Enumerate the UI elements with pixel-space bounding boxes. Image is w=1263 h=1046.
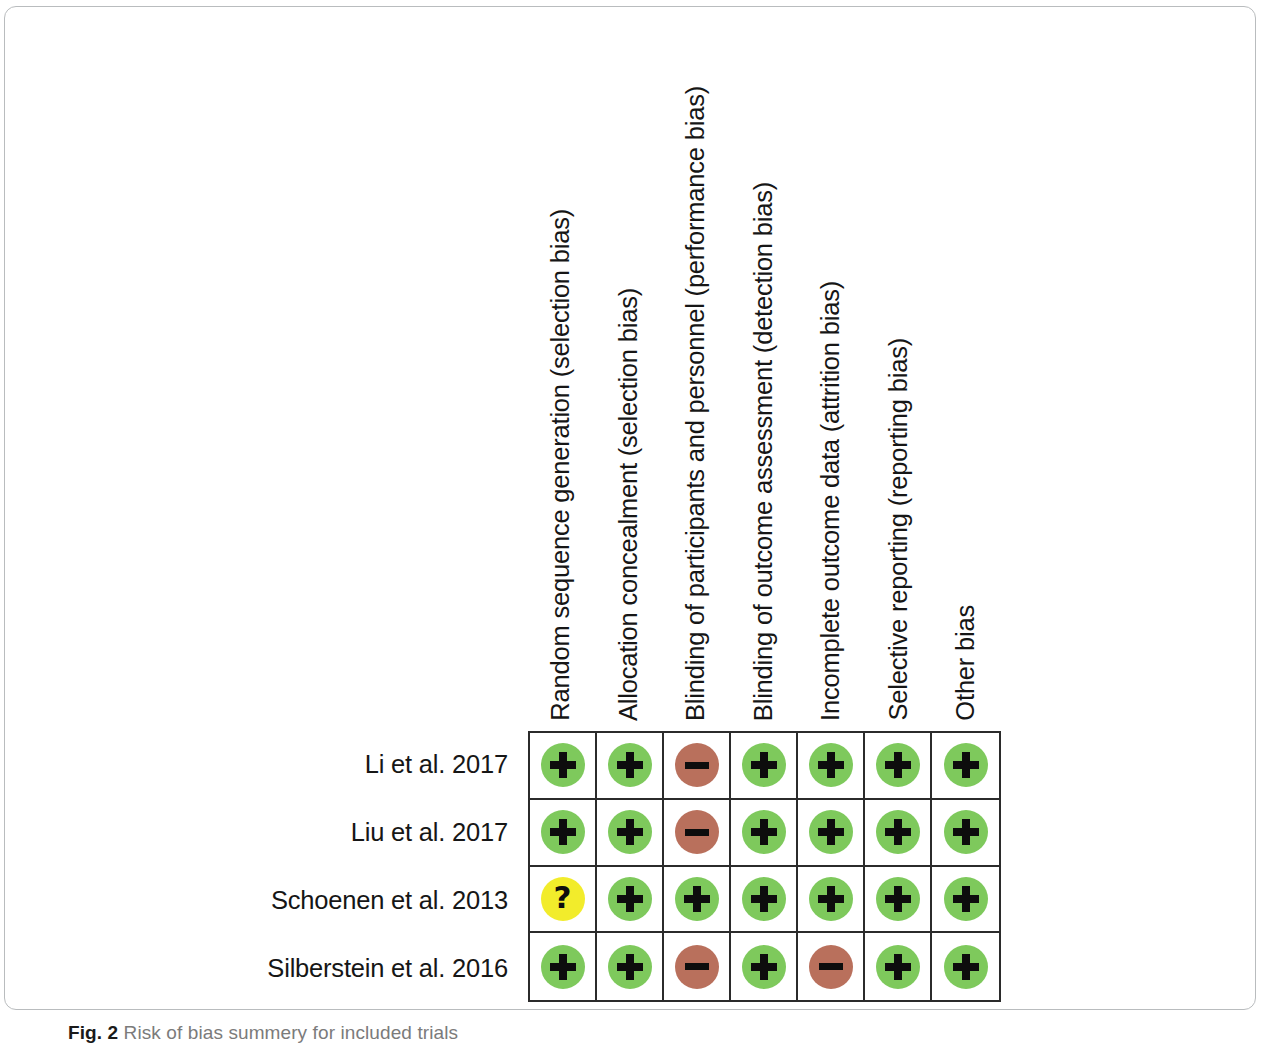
judgement-glyph: ? bbox=[554, 882, 572, 913]
judgement-low-icon bbox=[944, 945, 988, 989]
judgement-glyph bbox=[685, 963, 709, 970]
study-label: Liu et al. 2017 bbox=[0, 799, 518, 867]
judgement-glyph bbox=[751, 819, 777, 845]
column-header: Other bias bbox=[933, 21, 1001, 721]
judgement-glyph bbox=[818, 752, 844, 778]
judgement-low-icon bbox=[541, 743, 585, 787]
figure-caption: Fig. 2 Risk of bias summery for included… bbox=[68, 1022, 458, 1044]
study-label: Li et al. 2017 bbox=[0, 731, 518, 799]
risk-of-bias-cell bbox=[798, 800, 865, 867]
risk-of-bias-cell bbox=[932, 800, 999, 867]
judgement-low-icon bbox=[541, 810, 585, 854]
risk-of-bias-cell bbox=[932, 867, 999, 934]
judgement-glyph bbox=[953, 954, 979, 980]
judgement-glyph bbox=[885, 752, 911, 778]
risk-of-bias-cell bbox=[597, 867, 664, 934]
column-header: Blinding of participants and personnel (… bbox=[663, 21, 731, 721]
risk-of-bias-cell bbox=[798, 733, 865, 800]
judgement-glyph bbox=[885, 819, 911, 845]
column-header-label: Selective reporting (reporting bias) bbox=[886, 338, 912, 721]
judgement-low-icon bbox=[608, 945, 652, 989]
figure-caption-label: Fig. 2 bbox=[68, 1022, 118, 1043]
column-header-label: Blinding of outcome assessment (detectio… bbox=[751, 182, 777, 721]
column-header-label: Incomplete outcome data (attrition bias) bbox=[818, 281, 844, 721]
risk-of-bias-cell bbox=[865, 933, 932, 1000]
column-header: Incomplete outcome data (attrition bias) bbox=[798, 21, 866, 721]
column-header-band: Random sequence generation (selection bi… bbox=[528, 0, 1001, 731]
risk-of-bias-cell bbox=[664, 867, 731, 934]
risk-of-bias-cell bbox=[932, 933, 999, 1000]
judgement-glyph bbox=[617, 819, 643, 845]
risk-of-bias-cell bbox=[664, 933, 731, 1000]
risk-of-bias-cell bbox=[664, 733, 731, 800]
judgement-glyph bbox=[685, 762, 709, 769]
judgement-glyph bbox=[617, 954, 643, 980]
judgement-glyph bbox=[819, 963, 843, 970]
judgement-low-icon bbox=[541, 945, 585, 989]
column-header-label: Blinding of participants and personnel (… bbox=[683, 86, 709, 721]
study-label-column: Li et al. 2017Liu et al. 2017Schoenen et… bbox=[0, 731, 518, 1002]
risk-of-bias-cell bbox=[865, 800, 932, 867]
judgement-glyph bbox=[953, 752, 979, 778]
judgement-glyph bbox=[751, 954, 777, 980]
judgement-low-icon bbox=[876, 810, 920, 854]
judgement-glyph bbox=[550, 752, 576, 778]
risk-of-bias-cell bbox=[664, 800, 731, 867]
judgement-low-icon bbox=[809, 743, 853, 787]
figure-caption-text: Risk of bias summery for included trials bbox=[124, 1022, 459, 1043]
judgement-low-icon bbox=[608, 810, 652, 854]
judgement-low-icon bbox=[742, 743, 786, 787]
risk-of-bias-cell bbox=[597, 733, 664, 800]
judgement-low-icon bbox=[876, 877, 920, 921]
judgement-unclear-icon: ? bbox=[541, 877, 585, 921]
judgement-glyph bbox=[550, 819, 576, 845]
risk-of-bias-cell bbox=[530, 733, 597, 800]
risk-of-bias-cell bbox=[597, 800, 664, 867]
risk-of-bias-cell bbox=[865, 733, 932, 800]
judgement-glyph bbox=[550, 954, 576, 980]
judgement-high-icon bbox=[675, 810, 719, 854]
risk-of-bias-cell bbox=[530, 800, 597, 867]
judgement-low-icon bbox=[809, 877, 853, 921]
study-label: Schoenen et al. 2013 bbox=[0, 867, 518, 935]
study-label: Silberstein et al. 2016 bbox=[0, 934, 518, 1002]
column-header-label: Other bias bbox=[953, 605, 979, 721]
judgement-low-icon bbox=[876, 945, 920, 989]
judgement-low-icon bbox=[876, 743, 920, 787]
risk-of-bias-cell bbox=[597, 933, 664, 1000]
judgement-glyph bbox=[818, 819, 844, 845]
judgement-high-icon bbox=[675, 743, 719, 787]
risk-of-bias-cell bbox=[530, 933, 597, 1000]
judgement-glyph bbox=[617, 886, 643, 912]
judgement-low-icon bbox=[675, 877, 719, 921]
risk-of-bias-summary-figure: Random sequence generation (selection bi… bbox=[0, 0, 1263, 1010]
judgement-glyph bbox=[684, 886, 710, 912]
column-header: Blinding of outcome assessment (detectio… bbox=[731, 21, 799, 721]
column-header: Selective reporting (reporting bias) bbox=[866, 21, 934, 721]
judgement-glyph bbox=[953, 886, 979, 912]
risk-of-bias-cell bbox=[731, 867, 798, 934]
judgement-low-icon bbox=[809, 810, 853, 854]
judgement-glyph bbox=[885, 886, 911, 912]
judgement-low-icon bbox=[944, 810, 988, 854]
judgement-high-icon bbox=[675, 945, 719, 989]
risk-of-bias-cell: ? bbox=[530, 867, 597, 934]
column-header-label: Allocation concealment (selection bias) bbox=[616, 288, 642, 721]
risk-of-bias-cell bbox=[731, 933, 798, 1000]
judgement-high-icon bbox=[809, 945, 853, 989]
risk-of-bias-grid: ? bbox=[528, 731, 1001, 1002]
judgement-low-icon bbox=[608, 743, 652, 787]
judgement-low-icon bbox=[742, 810, 786, 854]
judgement-low-icon bbox=[944, 743, 988, 787]
judgement-low-icon bbox=[944, 877, 988, 921]
judgement-glyph bbox=[617, 752, 643, 778]
risk-of-bias-cell bbox=[798, 867, 865, 934]
judgement-low-icon bbox=[742, 945, 786, 989]
risk-of-bias-cell bbox=[932, 733, 999, 800]
figure-page: Random sequence generation (selection bi… bbox=[0, 0, 1263, 1046]
risk-of-bias-cell bbox=[731, 733, 798, 800]
judgement-glyph bbox=[751, 752, 777, 778]
column-header: Random sequence generation (selection bi… bbox=[528, 21, 596, 721]
risk-of-bias-cell bbox=[798, 933, 865, 1000]
column-header: Allocation concealment (selection bias) bbox=[596, 21, 664, 721]
